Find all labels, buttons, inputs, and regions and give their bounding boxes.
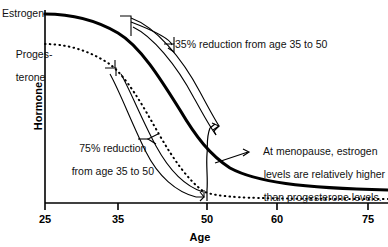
menopause-note-arrow	[215, 149, 249, 163]
progesterone-axis-label-line1: Proges-	[16, 48, 53, 60]
annotation-menopause-note-line2: levels are relatively higher	[264, 168, 385, 180]
estrogen-reduction-callout	[120, 16, 219, 135]
annotation-estrogen-reduction: 35% reduction from age 35 to 50	[175, 39, 327, 51]
annotation-menopause-note-line3: than progesterone levels.	[264, 191, 382, 203]
annotation-progesterone-reduction: 75% reduction from age 35 to 50	[57, 131, 157, 189]
annotation-menopause-note: At menopause, estrogen levels are relati…	[252, 134, 385, 215]
x-tick-label-35: 35	[106, 213, 130, 225]
annotation-menopause-note-line1: At menopause, estrogen	[263, 145, 377, 157]
x-tick-label-25: 25	[33, 213, 57, 225]
x-tick-label-50: 50	[195, 213, 219, 225]
y-axis-title: Hormone	[32, 76, 44, 136]
hormone-decline-chart: Estrogen Proges- terone Hormone 25 35 50…	[0, 0, 388, 247]
x-axis-title: Age	[180, 231, 220, 243]
annotation-progesterone-reduction-line1: 75% reduction	[79, 142, 146, 154]
menopause-marker	[207, 124, 215, 201]
x-tick-label-75: 75	[356, 213, 380, 225]
x-tick-label-60: 60	[265, 213, 289, 225]
estrogen-axis-label: Estrogen	[2, 8, 44, 20]
annotation-progesterone-reduction-line2: from age 35 to 50	[72, 165, 154, 177]
estrogen-reduction-leader	[131, 22, 172, 45]
